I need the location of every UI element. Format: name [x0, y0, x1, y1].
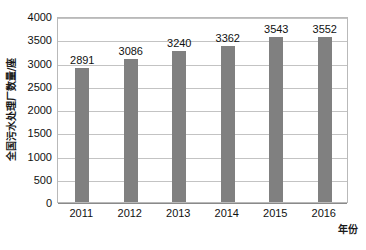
bar	[75, 68, 89, 202]
bar	[221, 46, 235, 202]
bar-group: 3240	[155, 18, 204, 202]
bar-value-label: 2891	[70, 54, 94, 66]
y-axis-tick-label: 1000	[28, 151, 52, 162]
bar	[318, 37, 332, 202]
y-axis-tick-label: 3000	[28, 58, 52, 69]
x-axis-tick-label: 2013	[166, 206, 190, 220]
x-axis-tick-label: 2015	[263, 206, 287, 220]
bar-group: 3086	[107, 18, 156, 202]
bar-value-label: 3552	[313, 23, 337, 35]
bar	[172, 51, 186, 202]
plot-area: 289130863240336235433552	[57, 17, 348, 203]
y-axis-tick-labels: 40003500300025002000150010005000	[20, 14, 54, 204]
bar-value-label: 3086	[119, 45, 143, 57]
x-axis-tick-label: 2014	[215, 206, 239, 220]
y-axis-tick-label: 2000	[28, 105, 52, 116]
x-axis-tick-label: 2016	[312, 206, 336, 220]
bar	[269, 37, 283, 202]
y-axis-tick-label: 1500	[28, 128, 52, 139]
bar-group: 3552	[301, 18, 350, 202]
bar	[124, 59, 138, 202]
y-axis-tick-label: 3500	[28, 35, 52, 46]
x-axis-tick-label: 2011	[69, 206, 93, 220]
bar-value-label: 3362	[216, 32, 240, 44]
y-axis-tick-label: 2500	[28, 81, 52, 92]
y-axis-tick-label: 0	[46, 198, 52, 209]
bar-group: 2891	[58, 18, 107, 202]
y-axis-title-label: 全国污水处理厂数量/座	[4, 57, 19, 161]
x-axis-title: 年份	[338, 224, 358, 236]
x-axis-tick-label: 2012	[118, 206, 142, 220]
bar-value-label: 3240	[167, 37, 191, 49]
axis-baseline	[58, 203, 347, 204]
y-axis-title: 全国污水处理厂数量/座	[2, 14, 20, 204]
y-axis-tick-label: 500	[34, 174, 52, 185]
bar-group: 3543	[252, 18, 301, 202]
bar-chart-figure: 全国污水处理厂数量/座 4000350030002500200015001000…	[0, 0, 366, 250]
y-axis-tick-label: 4000	[28, 12, 52, 23]
bar-group: 3362	[204, 18, 253, 202]
bars-layer: 289130863240336235433552	[58, 18, 347, 202]
bar-value-label: 3543	[264, 23, 288, 35]
x-axis-tick-labels: 201120122013201420152016	[57, 206, 348, 224]
